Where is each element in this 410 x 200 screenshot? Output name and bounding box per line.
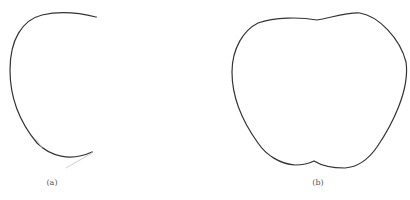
- apple-contour-b: [232, 13, 407, 168]
- panel-b: [232, 13, 407, 168]
- caption-a: (a): [46, 178, 57, 187]
- caption-b: (b): [312, 178, 323, 187]
- panel-a: [10, 13, 97, 168]
- open-curve-a: [10, 13, 96, 157]
- endpoint-bottom: [91, 151, 93, 153]
- figure-canvas: [0, 0, 410, 200]
- tangent-handle-bottom: [66, 153, 92, 168]
- endpoint-top: [95, 16, 97, 18]
